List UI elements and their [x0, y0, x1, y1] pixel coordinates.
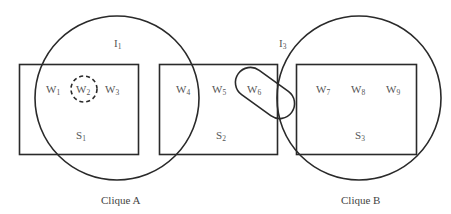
w6-capsule-highlight — [229, 61, 300, 124]
node-w9: W9 — [386, 83, 400, 97]
set-s2-box — [160, 65, 278, 155]
node-w1: W1 — [46, 83, 60, 97]
node-w5: W5 — [212, 83, 226, 97]
node-w7: W7 — [316, 83, 330, 97]
node-w4: W4 — [176, 83, 190, 97]
set-s3-box — [297, 65, 417, 155]
label-i1: I1 — [114, 37, 122, 51]
set-label-s3: S3 — [355, 129, 365, 143]
caption-clique-b: Clique B — [341, 194, 380, 206]
clique-diagram: I1 I3 W1 W2 W3 S1 W4 W5 W6 S2 W7 W8 W9 S… — [0, 0, 451, 214]
node-w6: W6 — [247, 83, 261, 97]
caption-clique-a: Clique A — [101, 194, 140, 206]
node-w8: W8 — [351, 83, 365, 97]
set-label-s1: S1 — [76, 129, 86, 143]
node-w2: W2 — [76, 83, 90, 97]
set-label-s2: S2 — [216, 129, 226, 143]
node-w3: W3 — [105, 83, 119, 97]
label-i3: I3 — [279, 37, 287, 51]
